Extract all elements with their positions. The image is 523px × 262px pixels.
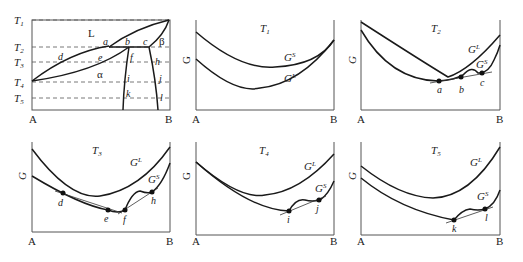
panel-t3-title: T3: [92, 144, 102, 158]
panel-t2-point-a: a: [437, 84, 442, 95]
panel-t1-title: T1: [260, 22, 270, 36]
point-e-marker: [106, 208, 111, 213]
label-gl-t3: GL: [130, 156, 142, 168]
label-t2: T2: [14, 41, 24, 55]
panel-t2-ylabel: G: [346, 56, 358, 64]
panel-t3-b: B: [166, 235, 173, 247]
point-a: a: [103, 36, 108, 47]
label-t1: T1: [14, 14, 24, 28]
point-k-marker: [452, 218, 457, 223]
panel-t1-ylabel: G: [180, 56, 192, 64]
panel-t5-title: T5: [431, 144, 441, 158]
point-f: f: [130, 52, 134, 63]
label-t3: T3: [14, 56, 24, 70]
region-beta: β: [159, 35, 165, 47]
panel-t4: i j T4 G GL GS A B: [180, 142, 337, 247]
panel-t2: a b c T2 G GL GS A B: [346, 20, 503, 125]
panel-t4-a: A: [192, 235, 200, 247]
point-j: j: [157, 73, 162, 84]
panel-t5-ylabel: G: [346, 172, 358, 180]
panel-t3-point-h: h: [151, 195, 156, 206]
point-h: h: [155, 56, 160, 67]
panel-t2-title: T2: [431, 22, 441, 36]
region-alpha: α: [97, 68, 103, 80]
panel-t4-point-i: i: [287, 214, 290, 225]
label-gs-t4: GS: [315, 182, 327, 194]
curve-gs-t2: [361, 30, 500, 81]
point-b-marker: [459, 75, 464, 80]
figure-canvas: T1 T2 T3 T4 T5 L α β a b c d e f h i j k…: [0, 0, 523, 262]
panel-t1: T1 G GS GL A B: [180, 20, 337, 125]
axis-label-b: B: [165, 113, 172, 125]
point-j-marker: [317, 198, 322, 203]
panel-t5-point-l: l: [485, 212, 488, 223]
point-l-marker: [483, 207, 488, 212]
panel-t4-title: T4: [259, 144, 269, 158]
point-a-marker: [437, 79, 442, 84]
region-liquid: L: [88, 27, 95, 39]
curve-gs-t4: [196, 162, 334, 211]
panel-t1-b: B: [330, 113, 337, 125]
label-gs-t3: GS: [148, 173, 160, 185]
point-d: d: [58, 51, 64, 62]
panel-t2-b: B: [496, 113, 503, 125]
point-l: l: [160, 92, 163, 103]
label-gs-t1: GS: [284, 51, 296, 63]
label-t4: T4: [14, 76, 24, 90]
panel-t3-ylabel: G: [16, 172, 28, 180]
label-gs-t2: GS: [476, 58, 488, 70]
solidus-alpha: [32, 47, 129, 81]
label-gl-t2: GL: [468, 43, 480, 55]
point-c: c: [143, 36, 148, 47]
panel-t3-point-d: d: [58, 197, 64, 208]
point-k: k: [126, 88, 131, 99]
panel-t5-b: B: [496, 235, 503, 247]
panel-t3: d e f h T3 G GL GS A B: [16, 142, 173, 247]
point-i: i: [127, 73, 130, 84]
point-h-marker: [150, 190, 155, 195]
panel-t3-point-f: f: [123, 214, 127, 225]
panel-t4-point-j: j: [314, 203, 319, 214]
panel-t4-b: B: [330, 235, 337, 247]
phase-diagram: T1 T2 T3 T4 T5 L α β a b c d e f h i j k…: [14, 14, 172, 125]
panel-t5: k l T5 G GL GS A B: [346, 142, 503, 247]
panel-t1-a: A: [192, 113, 200, 125]
panel-t2-point-c: c: [480, 77, 485, 88]
label-gl-t5: GL: [470, 156, 482, 168]
panel-t5-point-k: k: [452, 223, 457, 234]
panel-t4-ylabel: G: [180, 172, 192, 180]
point-d-marker: [61, 191, 66, 196]
point-i-marker: [287, 209, 292, 214]
label-gs-t5: GS: [477, 190, 489, 202]
label-gl-t1: GL: [284, 72, 296, 84]
point-e: e: [98, 52, 103, 63]
point-c-marker: [480, 71, 485, 76]
axis-label-a: A: [29, 113, 37, 125]
label-gl-t4: GL: [304, 160, 316, 172]
panel-t3-a: A: [28, 235, 36, 247]
panel-t5-a: A: [357, 235, 365, 247]
panel-t2-point-b: b: [459, 84, 464, 95]
point-b: b: [125, 36, 130, 47]
panel-t3-point-e: e: [104, 213, 109, 224]
phase-diagram-frame: [32, 20, 170, 110]
panel-t2-a: A: [357, 113, 365, 125]
label-t5: T5: [14, 92, 24, 106]
point-f-marker: [123, 208, 128, 213]
